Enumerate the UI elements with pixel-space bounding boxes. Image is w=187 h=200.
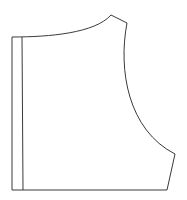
bodice-outline	[12, 15, 175, 190]
pattern-diagram	[0, 0, 187, 200]
placket-line	[22, 37, 23, 190]
